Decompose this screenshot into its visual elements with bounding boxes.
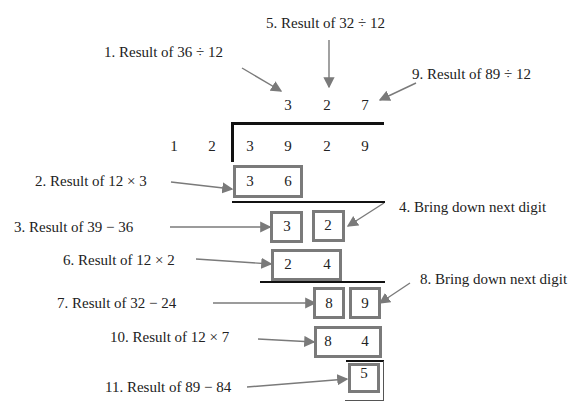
label-step3: 3. Result of 39 − 36	[14, 218, 133, 236]
subtraction-line	[232, 201, 385, 203]
label-step4: 4. Bring down next digit	[399, 198, 546, 216]
label-step5: 5. Result of 32 ÷ 12	[266, 14, 385, 32]
remainder-digit: 8	[319, 294, 339, 312]
brought-down-digit: 9	[355, 294, 375, 312]
product-digit: 4	[355, 332, 375, 350]
label-step6: 6. Result of 12 × 2	[63, 251, 175, 269]
arrow-step11	[247, 379, 347, 387]
label-step2: 2. Result of 12 × 3	[35, 172, 147, 190]
division-bracket	[231, 122, 234, 162]
product-digit: 8	[318, 332, 338, 350]
arrow-step2	[171, 182, 232, 189]
brought-down-digit: 2	[318, 216, 338, 234]
arrow-step8	[380, 283, 410, 303]
label-step8: 8. Bring down next digit	[420, 270, 567, 288]
divisor-digit: 2	[202, 137, 222, 155]
final-remainder-digit: 5	[354, 364, 374, 382]
arrow-step9	[380, 83, 416, 100]
subtraction-line	[260, 281, 385, 283]
dividend-digit: 9	[278, 137, 298, 155]
label-step9: 9. Result of 89 ÷ 12	[412, 65, 531, 83]
divisor-digit: 1	[164, 137, 184, 155]
product-digit: 2	[278, 255, 298, 273]
arrow-step6	[196, 259, 271, 264]
subtraction-line	[346, 360, 384, 362]
arrow-step4	[348, 203, 384, 226]
label-step10: 10. Result of 12 × 7	[110, 328, 229, 346]
final-bracket-right	[383, 361, 384, 401]
remainder-digit: 3	[277, 217, 297, 235]
quotient-digit: 7	[355, 96, 375, 114]
arrow-step10	[258, 339, 314, 342]
final-bracket-bottom	[345, 400, 384, 401]
label-step11: 11. Result of 89 − 84	[105, 378, 231, 396]
product-digit: 4	[317, 255, 337, 273]
quotient-digit: 3	[278, 96, 298, 114]
dividend-digit: 3	[240, 137, 260, 155]
product-digit: 3	[240, 172, 260, 190]
label-step7: 7. Result of 32 − 24	[57, 294, 176, 312]
product-digit: 6	[278, 172, 298, 190]
dividend-digit: 9	[355, 137, 375, 155]
arrow-step1	[242, 68, 281, 91]
dividend-digit: 2	[317, 137, 337, 155]
label-step1: 1. Result of 36 ÷ 12	[104, 43, 223, 61]
division-bar	[231, 122, 384, 125]
quotient-digit: 2	[317, 96, 337, 114]
